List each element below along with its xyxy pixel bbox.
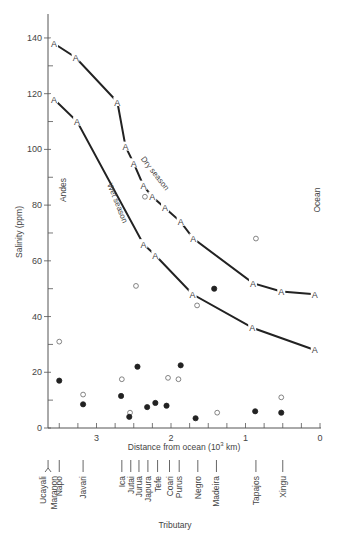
- wet-season-point: A: [140, 240, 146, 250]
- dry-season-point: A: [140, 181, 146, 191]
- x-tick-label: 0: [317, 433, 322, 443]
- dry-season-tributary-point: [81, 392, 86, 397]
- tributary-label-napo: Napo: [54, 476, 64, 497]
- wet-season-tributary-point: [279, 410, 284, 415]
- wet-season-tributary-point: [253, 409, 258, 414]
- dry-season-tributary-point: [215, 410, 220, 415]
- x-axis-title-main: Distance from ocean (10: [128, 442, 221, 452]
- wet-season-point: A: [190, 290, 196, 300]
- tributary-label-madeira: Madeira: [211, 476, 221, 507]
- y-axis-title: Salinity (ppm): [14, 206, 24, 258]
- y-tick-label: 80: [32, 200, 42, 210]
- ucayali-maranon-junction-tick: [45, 460, 51, 472]
- wet-season-label: Wet season: [105, 182, 129, 224]
- dry-season-point: A: [278, 287, 284, 297]
- y-tick-label: 0: [37, 423, 42, 433]
- y-tick-label: 120: [27, 89, 42, 99]
- wet-season-tributary-point: [193, 416, 198, 421]
- dry-season-tributary-point: [57, 339, 62, 344]
- y-tick-label: 20: [32, 367, 42, 377]
- y-tick-label: 60: [32, 256, 42, 266]
- dry-season-point: A: [131, 159, 137, 169]
- dry-season-tributary-point: [176, 377, 181, 382]
- wet-season-tributary-point: [164, 403, 169, 408]
- tributary-axis: UcayaliMaranonNapoJavariIcaJutaiJuruaJap…: [38, 460, 288, 510]
- wet-season-point: A: [51, 95, 57, 105]
- x-tick-label: 3: [94, 433, 99, 443]
- dry-season-tributary-point: [279, 395, 284, 400]
- dry-season-tributary-point: [119, 377, 124, 382]
- wet-season-tributary-point: [57, 378, 62, 383]
- tributary-label-japura: Japura: [143, 476, 153, 502]
- x-axis-title-end: km): [224, 442, 241, 452]
- x-tick-label: 1: [243, 433, 248, 443]
- tributary-title: Tributary: [158, 520, 192, 530]
- ocean-label: Ocean: [312, 187, 322, 212]
- wet-season-point: A: [249, 323, 255, 333]
- dry-season-tributary-point: [134, 284, 139, 289]
- tributary-label-purus: Purus: [174, 476, 184, 498]
- andes-label: Andes: [58, 178, 68, 202]
- wet-season-tributary-point: [212, 286, 217, 291]
- dry-season-point: A: [190, 234, 196, 244]
- tributary-label-ucayali: Ucayali: [38, 476, 48, 504]
- dry-season-point: A: [162, 203, 168, 213]
- dry-season-tributary-point: [254, 236, 259, 241]
- dry-season-point: A: [114, 98, 120, 108]
- y-tick-label: 40: [32, 312, 42, 322]
- salinity-chart: 0204060801001201403210 AAAAAAAAAAAAAAAAA…: [0, 0, 340, 549]
- wet-season-tributary-point: [80, 402, 85, 407]
- wet-season-tributary-point: [145, 405, 150, 410]
- wet-season-tributary-point: [127, 414, 132, 419]
- tributary-label-xingu: Xingu: [278, 476, 288, 498]
- dry-season-point: A: [149, 192, 155, 202]
- dry-season-tributary-point: [143, 194, 148, 199]
- tributary-label-coari: Coari: [165, 476, 175, 496]
- tributary-label-javari: Javari: [78, 476, 88, 499]
- dry-season-line: [54, 44, 315, 295]
- tributary-label-tapajos: Tapajos: [251, 476, 261, 505]
- axes: 0204060801001201403210: [27, 14, 323, 443]
- x-axis-title: Distance from ocean (103 km): [128, 441, 241, 452]
- dry-season-point: A: [51, 39, 57, 49]
- wet-season-tributary-point: [153, 400, 158, 405]
- tributary-label-negro: Negro: [193, 476, 203, 499]
- wet-season-point: A: [152, 251, 158, 261]
- dry-season-tributary-point: [166, 375, 171, 380]
- dry-season-point: A: [178, 217, 184, 227]
- dry-season-point: A: [250, 279, 256, 289]
- wet-season-point: A: [74, 117, 80, 127]
- dry-season-point: A: [73, 53, 79, 63]
- wet-season-point: A: [312, 345, 318, 355]
- wet-season-tributary-point: [178, 363, 183, 368]
- y-tick-label: 100: [27, 144, 42, 154]
- tributary-label-tefe: Tefe: [153, 476, 163, 492]
- dry-season-tributary-point: [195, 303, 200, 308]
- dry-season-point: A: [312, 290, 318, 300]
- y-tick-label: 140: [27, 33, 42, 43]
- wet-season-tributary-point: [118, 393, 123, 398]
- chart-canvas: 0204060801001201403210 AAAAAAAAAAAAAAAAA…: [0, 0, 340, 549]
- series-layer: AAAAAAAAAAAAAAAAAAAA: [50, 39, 319, 421]
- dry-season-point: A: [123, 142, 129, 152]
- wet-season-tributary-point: [135, 364, 140, 369]
